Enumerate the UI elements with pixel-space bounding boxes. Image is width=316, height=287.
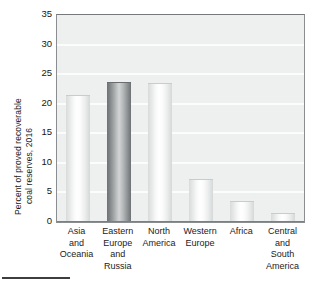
x-category-label-line: Russia: [93, 261, 142, 273]
footnote-rule: [2, 277, 70, 279]
gridline: [57, 44, 304, 46]
plot-area: [56, 14, 305, 223]
axis-baseline: [57, 221, 304, 222]
x-axis-category-labels: AsiaandOceaniaEasternEuropeandRussiaNort…: [56, 226, 305, 287]
y-axis-tick-labels: 05101520253035: [32, 0, 52, 240]
y-tick-label: 0: [34, 216, 52, 226]
x-category-label-line: and: [258, 238, 307, 250]
bar: [230, 201, 254, 222]
gridline: [57, 162, 304, 164]
x-category-label-line: South: [258, 249, 307, 261]
bar: [66, 95, 90, 222]
x-category-label-line: Central: [258, 226, 307, 238]
y-tick-label: 35: [34, 9, 52, 19]
y-tick-label: 20: [34, 98, 52, 108]
y-axis-title: Percent of proved recoverable coal reser…: [0, 0, 36, 230]
bar-chart-figure: Percent of proved recoverable coal reser…: [0, 0, 316, 287]
y-tick-label: 15: [34, 127, 52, 137]
gridline: [57, 103, 304, 105]
gridline: [57, 73, 304, 75]
y-tick-label: 10: [34, 157, 52, 167]
y-tick-label: 25: [34, 68, 52, 78]
plot-inner: [57, 15, 304, 222]
y-tick-label: 30: [34, 39, 52, 49]
bar: [148, 83, 172, 222]
x-category-label-line: Europe: [176, 238, 225, 250]
gridline: [57, 132, 304, 134]
x-category-label-line: America: [258, 261, 307, 273]
x-category-label-line: and: [93, 249, 142, 261]
bar: [107, 82, 131, 222]
bar: [189, 179, 213, 222]
gridline: [57, 191, 304, 193]
x-category-label: CentralandSouthAmerica: [258, 226, 307, 272]
y-tick-label: 5: [34, 186, 52, 196]
y-axis-title-line-1: Percent of proved recoverable: [13, 98, 23, 215]
